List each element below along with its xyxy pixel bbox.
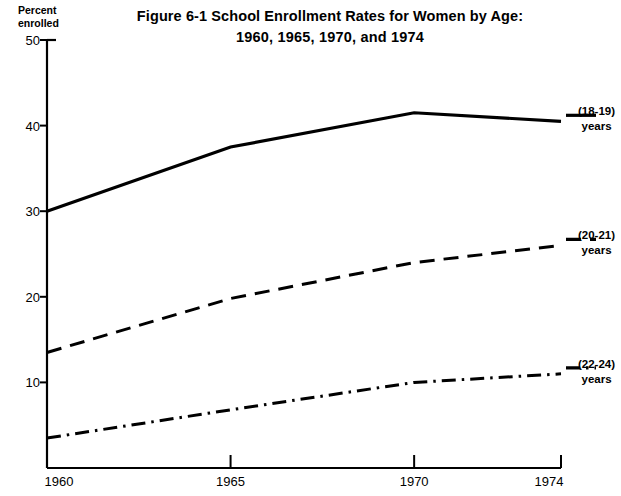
y-axis-tick-label: 10 [26, 375, 40, 390]
series-label-range: (18-19) [578, 104, 615, 119]
series-line-3 [47, 374, 561, 438]
x-axis-tick-label: 1974 [535, 474, 564, 489]
plot-area [0, 0, 621, 496]
series-label-2: (20-21)years [578, 228, 615, 258]
series-label-range: (20-21) [578, 228, 615, 243]
x-axis-tick-label: 1970 [400, 474, 429, 489]
series-line-2 [47, 245, 561, 352]
series-label-unit: years [578, 372, 615, 387]
y-axis-tick-label: 30 [26, 204, 40, 219]
series-label-range: (22-24) [578, 357, 615, 372]
x-axis-tick-label: 1965 [216, 474, 245, 489]
axes [40, 40, 561, 468]
series-line-1 [47, 113, 561, 211]
series-label-unit: years [578, 243, 615, 258]
series-label-3: (22-24)years [578, 357, 615, 387]
y-axis-tick-label: 50 [26, 33, 40, 48]
y-axis-tick-label: 40 [26, 118, 40, 133]
figure-container: Figure 6-1 School Enrollment Rates for W… [0, 0, 621, 496]
series-label-1: (18-19)years [578, 104, 615, 134]
y-axis-tick-label: 20 [26, 289, 40, 304]
data-series-group [47, 113, 561, 438]
series-label-unit: years [578, 119, 615, 134]
x-axis-tick-label: 1960 [45, 474, 74, 489]
